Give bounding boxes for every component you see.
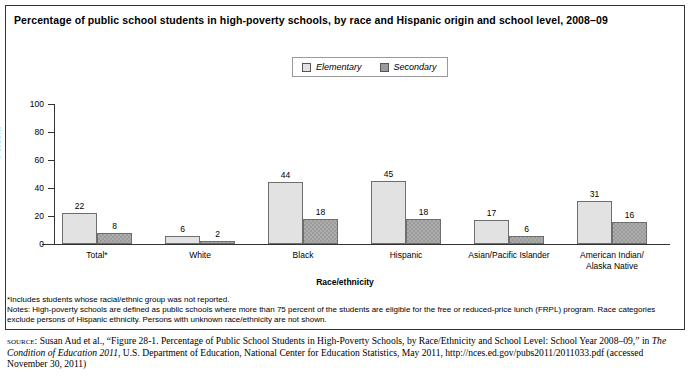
bar-elementary: [371, 181, 406, 244]
bar-group: 62: [165, 104, 235, 244]
y-axis-tick-label: 80: [14, 128, 44, 137]
bar-value-label: 45: [371, 170, 406, 179]
bar-elementary: [577, 201, 612, 244]
chart-legend: Elementary Secondary: [292, 57, 448, 77]
bar-secondary: [303, 219, 338, 244]
source-label: source:: [7, 335, 37, 346]
bar-value-label: 44: [268, 171, 303, 180]
bar-secondary: [612, 222, 647, 244]
y-axis-tick: [48, 244, 54, 245]
y-axis-tick-label: 20: [14, 212, 44, 221]
y-axis-label: Percent: [0, 127, 2, 158]
bar-elementary: [268, 182, 303, 244]
bar-elementary: [62, 213, 97, 244]
bar-group: 3116: [577, 104, 647, 244]
page-title: Percentage of public school students in …: [14, 14, 664, 27]
x-axis-label: Race/ethnicity: [0, 277, 690, 287]
legend-label-elementary: Elementary: [316, 62, 362, 72]
legend-item-secondary: Secondary: [380, 62, 437, 72]
legend-swatch-secondary: [380, 63, 389, 72]
source-part1: Susan Aud et al., “Figure 28-1. Percenta…: [37, 335, 651, 346]
y-axis-tick-label: 0: [14, 240, 44, 249]
footnote-text: *Includes students whose racial/ethnic g…: [7, 295, 683, 305]
x-axis-category-label: Hispanic: [351, 250, 461, 261]
bar-value-label: 2: [200, 230, 235, 239]
notes-text: Notes: High-poverty schools are defined …: [7, 305, 683, 325]
legend-swatch-elementary: [302, 63, 311, 72]
x-axis-category-label: American Indian/ Alaska Native: [557, 250, 667, 271]
x-axis-category-label: Total*: [42, 250, 152, 261]
bar-secondary: [200, 241, 235, 244]
bar-secondary: [509, 236, 544, 244]
bar-elementary: [474, 220, 509, 244]
bar-group: 228: [62, 104, 132, 244]
bar-elementary: [165, 236, 200, 244]
y-axis-tick-label: 100: [14, 100, 44, 109]
y-axis-tick-label: 60: [14, 156, 44, 165]
bar-group: 4518: [371, 104, 441, 244]
source-citation: source: Susan Aud et al., “Figure 28-1. …: [7, 335, 683, 370]
chart-notes: *Includes students whose racial/ethnic g…: [7, 295, 683, 326]
bar-value-label: 18: [303, 208, 338, 217]
bar-value-label: 6: [509, 225, 544, 234]
legend-label-secondary: Secondary: [394, 62, 437, 72]
legend-item-elementary: Elementary: [302, 62, 362, 72]
x-axis-line: [42, 244, 670, 245]
x-axis-category-label: White: [145, 250, 255, 261]
bar-value-label: 17: [474, 209, 509, 218]
bar-value-label: 31: [577, 190, 612, 199]
bar-value-label: 18: [406, 208, 441, 217]
bar-secondary: [406, 219, 441, 244]
bar-value-label: 16: [612, 211, 647, 220]
bar-secondary: [97, 233, 132, 244]
plot-area: 22862441845181763116: [54, 104, 670, 244]
y-axis-tick-label: 40: [14, 184, 44, 193]
bar-value-label: 22: [62, 202, 97, 211]
x-axis-category-label: Asian/Pacific Islander: [454, 250, 564, 261]
x-axis-category-label: Black: [248, 250, 358, 261]
bar-value-label: 8: [97, 222, 132, 231]
figure-page: Percentage of public school students in …: [0, 0, 690, 383]
bar-group: 4418: [268, 104, 338, 244]
bar-value-label: 6: [165, 225, 200, 234]
bar-group: 176: [474, 104, 544, 244]
